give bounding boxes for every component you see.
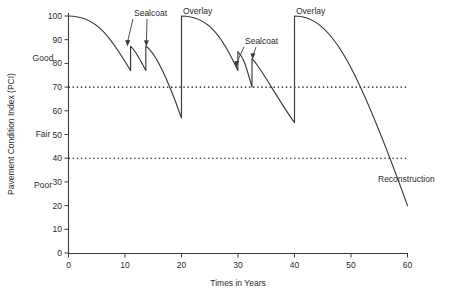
y-axis-title: Pavement Condition Index (PCI) — [6, 73, 16, 195]
x-ticklabel-20: 20 — [177, 260, 187, 270]
y-ticklabel-0: 0 — [57, 248, 62, 258]
condition-label-good: Good — [33, 53, 54, 63]
y-axis-title-group: Pavement Condition Index (PCI) — [6, 73, 16, 195]
x-ticklabel-50: 50 — [346, 260, 356, 270]
pci-curve-group — [69, 16, 408, 206]
x-ticklabel-30: 30 — [233, 260, 243, 270]
y-ticklabel-30: 30 — [53, 177, 63, 187]
y-ticklabel-40: 40 — [53, 153, 63, 163]
annotation-label-sealcoat-1: Sealcoat — [134, 8, 168, 18]
arrowhead-sealcoat-2b — [251, 53, 256, 59]
annotation-reconstruction: Reconstruction — [378, 174, 435, 184]
annotation-sealcoat-2: Sealcoat — [234, 36, 279, 68]
annotation-label-overlay-1: Overlay — [183, 6, 213, 16]
x-ticklabel-40: 40 — [290, 260, 300, 270]
pavement-condition-chart: Pavement Condition Index (PCI) Good Fair… — [0, 0, 454, 291]
annotation-sealcoat-1: Sealcoat — [125, 8, 168, 47]
y-ticklabel-70: 70 — [53, 82, 63, 92]
x-ticklabel-60: 60 — [403, 260, 413, 270]
arrowhead-sealcoat-1b — [144, 40, 149, 46]
x-axis-title: Times in Years — [210, 278, 265, 288]
annotation-label-overlay-2: Overlay — [296, 6, 326, 16]
annotation-overlay-2: Overlay — [296, 6, 326, 16]
arrowhead-sealcoat-1a — [125, 40, 130, 47]
y-ticklabel-50: 50 — [53, 130, 63, 140]
leader-line-sealcoat-1 — [128, 19, 148, 42]
annotation-label-reconstruction: Reconstruction — [378, 174, 435, 184]
pci-curve — [69, 16, 408, 206]
annotation-overlay-1: Overlay — [183, 6, 213, 16]
y-ticklabel-80: 80 — [53, 58, 63, 68]
x-axis: 0 10 20 30 40 50 60 Times in Years — [66, 254, 412, 289]
annotation-label-sealcoat-2: Sealcoat — [245, 36, 279, 46]
condition-label-poor: Poor — [34, 180, 52, 190]
condition-label-fair: Fair — [36, 129, 51, 139]
threshold-lines — [69, 87, 408, 158]
x-ticklabel-10: 10 — [120, 260, 130, 270]
y-ticklabel-20: 20 — [53, 201, 63, 211]
y-axis: 100 90 80 70 60 50 40 30 20 10 0 — [48, 11, 69, 258]
y-ticklabel-100: 100 — [48, 11, 62, 21]
y-ticklabel-90: 90 — [53, 35, 63, 45]
x-ticklabel-0: 0 — [66, 260, 71, 270]
condition-band-labels: Good Fair Poor — [33, 53, 54, 190]
y-ticklabel-10: 10 — [53, 224, 63, 234]
y-ticklabel-60: 60 — [53, 106, 63, 116]
